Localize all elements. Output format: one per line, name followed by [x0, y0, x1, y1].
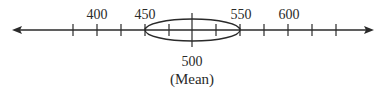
label-450: 450 — [135, 7, 156, 22]
label-600: 600 — [279, 7, 300, 22]
label-400: 400 — [87, 7, 108, 22]
mean-caption: (Mean) — [170, 71, 214, 88]
label-550: 550 — [231, 7, 252, 22]
mean-value-label: 500 — [182, 54, 203, 69]
number-line-diagram: 400 450 550 600 500 (Mean) — [0, 0, 385, 93]
